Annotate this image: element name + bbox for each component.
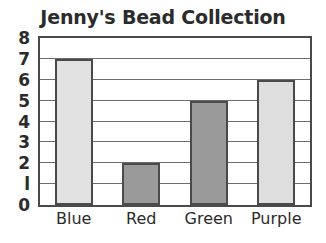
x-tick-label: Purple: [251, 209, 302, 228]
y-tick-label: 4: [18, 113, 30, 130]
bar: [257, 80, 295, 205]
bar-chart: Jenny's Bead Collection 0l2345678 BlueRe…: [0, 0, 326, 243]
y-tick-label: 0: [18, 197, 30, 214]
y-tick-label: 2: [18, 155, 30, 172]
y-tick-label: 6: [18, 71, 30, 88]
y-tick-label: l: [24, 176, 30, 193]
y-tick-label: 5: [18, 92, 30, 109]
x-tick-label: Blue: [56, 209, 91, 228]
y-tick-label: 3: [18, 134, 30, 151]
plot-area: [38, 36, 312, 207]
bar: [55, 59, 93, 205]
chart-title: Jenny's Bead Collection: [0, 6, 326, 28]
y-axis: 0l2345678: [0, 36, 34, 207]
y-tick-label: 8: [18, 30, 30, 47]
x-axis: BlueRedGreenPurple: [38, 209, 312, 239]
bar: [190, 101, 228, 205]
x-tick-label: Green: [185, 209, 233, 228]
y-tick-label: 7: [18, 50, 30, 67]
bar: [122, 163, 160, 205]
x-tick-label: Red: [126, 209, 156, 228]
